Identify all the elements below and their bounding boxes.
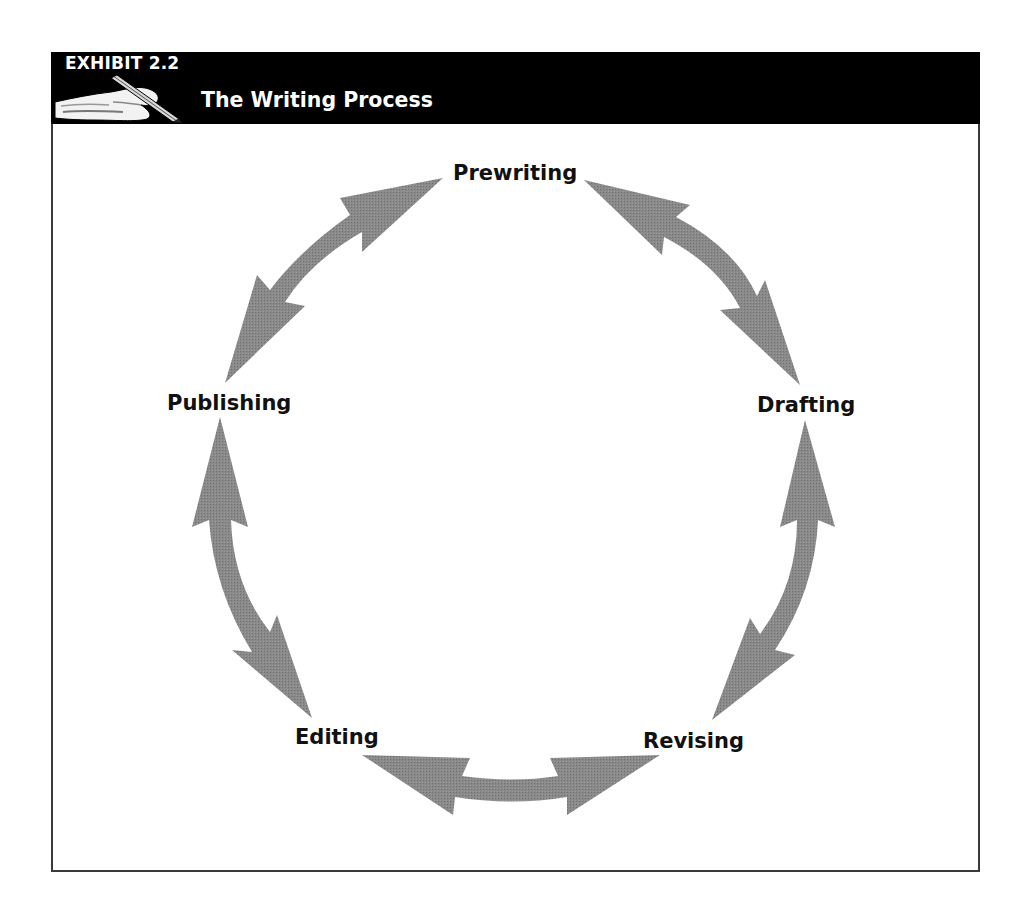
arrow-publishing-prewriting: [225, 178, 443, 383]
arrow-editing-revising: [362, 755, 660, 815]
arrow-editing-publishing: [192, 417, 312, 718]
stage-label-prewriting: Prewriting: [453, 163, 577, 184]
stage-label-drafting: Drafting: [757, 395, 855, 416]
arrow-drafting-revising: [712, 420, 835, 720]
stage-label-revising: Revising: [643, 731, 744, 752]
stage-label-editing: Editing: [295, 727, 379, 748]
arrow-prewriting-drafting: [584, 180, 800, 385]
writing-process-cycle-diagram: [0, 0, 1024, 918]
stage-label-publishing: Publishing: [167, 393, 291, 414]
